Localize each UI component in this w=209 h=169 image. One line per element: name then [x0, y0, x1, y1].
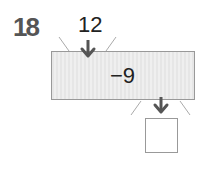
arrow-down-icon [82, 40, 94, 56]
machine-decorations [0, 0, 209, 169]
arrow-down-icon [155, 97, 167, 112]
